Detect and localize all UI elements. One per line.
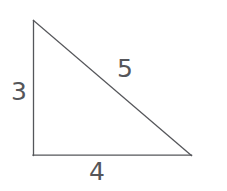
hypotenuse-line [34,21,192,156]
triangle-diagram: 3 5 4 [0,0,227,191]
hypotenuse-label: 5 [117,56,133,81]
triangle-shape [0,0,227,191]
base-label: 4 [89,159,105,184]
vertical-leg-label: 3 [11,79,27,104]
